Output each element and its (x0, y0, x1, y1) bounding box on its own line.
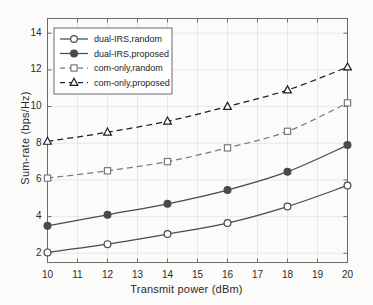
data-point-marker-triangle-open (344, 63, 352, 70)
legend-marker-2 (71, 65, 77, 71)
data-point-marker-square-open (104, 168, 110, 174)
y-tick-label: 12 (14, 63, 42, 74)
data-point-marker-circle-open (344, 182, 351, 189)
x-tick-label: 18 (274, 269, 302, 280)
data-point-marker-circle-filled (344, 142, 351, 149)
data-point-marker-circle-filled (104, 211, 111, 218)
y-tick-label: 14 (14, 27, 42, 38)
x-tick-label: 20 (334, 269, 362, 280)
y-tick-label: 6 (14, 173, 42, 184)
data-point-marker-circle-filled (224, 187, 231, 194)
y-tick-label: 8 (14, 137, 42, 148)
y-tick-label: 10 (14, 100, 42, 111)
data-point-marker-circle-filled (164, 200, 171, 207)
x-tick-label: 10 (34, 269, 62, 280)
legend-label-3: com-only,proposed (94, 78, 170, 88)
data-point-marker-square-open (224, 145, 230, 151)
y-tick-label: 2 (14, 247, 42, 258)
x-tick-label: 14 (154, 269, 182, 280)
chart-figure: dual-IRS,randomdual-IRS,proposedcom-only… (0, 0, 373, 305)
data-point-marker-square-open (164, 158, 170, 164)
x-tick-label: 12 (94, 269, 122, 280)
y-tick-label: 4 (14, 210, 42, 221)
data-point-marker-square-open (284, 128, 290, 134)
data-point-marker-circle-open (224, 220, 231, 227)
x-axis-title: Transmit power (dBm) (0, 283, 373, 295)
x-tick-label: 19 (304, 269, 332, 280)
data-point-marker-circle-filled (284, 168, 291, 175)
x-tick-label: 17 (244, 269, 272, 280)
data-point-marker-triangle-open (284, 86, 292, 93)
chart-legend: dual-IRS,randomdual-IRS,proposedcom-only… (54, 28, 172, 94)
legend-marker-0 (71, 36, 78, 43)
legend-label-1: dual-IRS,proposed (94, 49, 169, 59)
data-point-marker-circle-filled (44, 222, 51, 229)
chart-canvas: dual-IRS,randomdual-IRS,proposedcom-only… (0, 0, 373, 305)
x-tick-label: 11 (64, 269, 92, 280)
data-point-marker-triangle-open (224, 102, 232, 109)
data-point-marker-circle-open (104, 241, 111, 248)
x-tick-label: 15 (184, 269, 212, 280)
legend-label-2: com-only,random (94, 63, 163, 73)
data-point-marker-circle-open (284, 203, 291, 210)
data-point-marker-circle-open (44, 249, 51, 256)
x-tick-label: 16 (214, 269, 242, 280)
legend-marker-1 (71, 50, 78, 57)
data-point-marker-square-open (344, 100, 350, 106)
legend-label-0: dual-IRS,random (94, 34, 162, 44)
data-point-marker-square-open (44, 175, 50, 181)
data-point-marker-circle-open (164, 231, 171, 238)
x-tick-label: 13 (124, 269, 152, 280)
